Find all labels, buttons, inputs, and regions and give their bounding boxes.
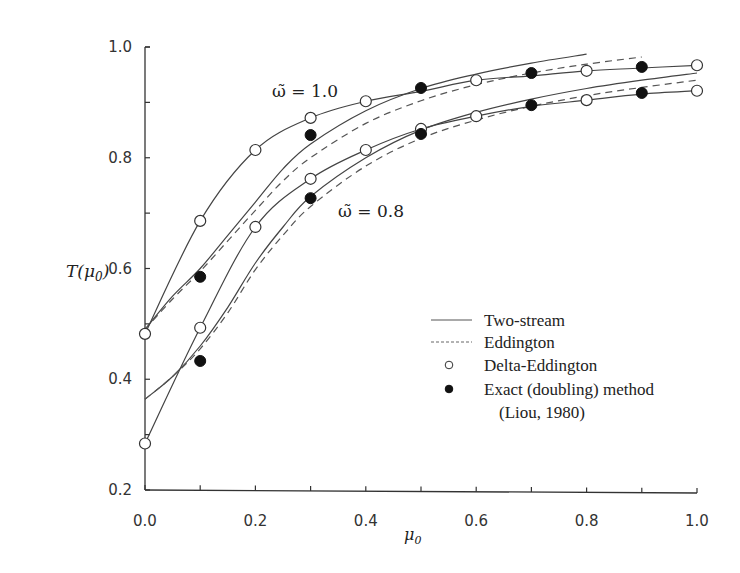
filled-circle-marker — [636, 61, 647, 72]
series-delta-eddington-omega-1 — [140, 60, 703, 340]
open-circle-marker — [140, 328, 151, 339]
series-exact-doubling-omega-0-8 — [195, 87, 648, 366]
x-axis-label-sub: 0 — [414, 534, 421, 547]
y-ticks: 0.20.40.60.81.0 — [108, 38, 150, 499]
x-axis-label-main: μ — [404, 525, 414, 544]
transmission-chart: 0.20.40.60.81.0 0.00.20.40.60.81.0 ω̃ = … — [0, 0, 740, 573]
open-circle-marker — [360, 144, 371, 155]
open-circle-marker — [471, 111, 482, 122]
filled-circle-marker — [416, 82, 427, 93]
y-tick-label: 0.4 — [108, 370, 132, 388]
x-axis-label: μ0 — [404, 525, 421, 547]
legend-item-exact-doubling: Exact (doubling) method — [484, 380, 654, 399]
y-axis-label-main: T(μ — [66, 261, 95, 281]
filled-circle-marker — [636, 87, 647, 98]
open-circle-marker — [692, 60, 703, 71]
open-circle-marker — [692, 85, 703, 96]
filled-circle-marker — [526, 100, 537, 111]
open-circle-marker — [471, 75, 482, 86]
legend-citation: (Liou, 1980) — [499, 403, 585, 422]
open-circle-marker — [195, 322, 206, 333]
x-tick-label: 0.2 — [243, 512, 267, 530]
x-tick-label: 0.8 — [575, 512, 599, 530]
legend-item-delta-eddington: Delta-Eddington — [484, 356, 598, 375]
filled-circle-marker — [305, 130, 316, 141]
omega-high-annotation: ω̃ = 1.0 — [272, 81, 338, 101]
open-circle-marker — [195, 215, 206, 226]
filled-circle-marker — [305, 193, 316, 204]
axes: 0.20.40.60.81.0 0.00.20.40.60.81.0 — [108, 38, 709, 530]
filled-circle-marker — [416, 128, 427, 139]
open-circle-marker — [581, 95, 592, 106]
x-tick-label: 0.6 — [464, 512, 488, 530]
legend-item-eddington: Eddington — [484, 333, 555, 352]
x-tick-label: 1.0 — [685, 512, 709, 530]
legend-item-two-stream: Two-stream — [484, 311, 565, 330]
curve-line — [145, 65, 697, 334]
open-circle-marker — [305, 173, 316, 184]
y-axis-label: T(μ0) — [66, 261, 109, 284]
x-tick-label: 0.0 — [133, 512, 157, 530]
open-circle-marker — [305, 112, 316, 123]
legend: Two-stream Eddington Delta-Eddington Exa… — [431, 311, 654, 422]
legend-open-circle-icon — [445, 361, 453, 369]
filled-circle-marker — [526, 68, 537, 79]
filled-circle-marker — [195, 355, 206, 366]
y-tick-label: 1.0 — [108, 38, 132, 56]
open-circle-marker — [581, 65, 592, 76]
open-circle-marker — [250, 221, 261, 232]
y-tick-label: 0.6 — [108, 260, 132, 278]
y-axis-label-close: ) — [102, 261, 110, 281]
y-tick-label: 0.8 — [108, 149, 132, 167]
x-tick-label: 0.4 — [354, 512, 378, 530]
open-circle-marker — [250, 144, 261, 155]
filled-circle-marker — [195, 271, 206, 282]
legend-filled-circle-icon — [445, 385, 453, 393]
series-exact-doubling-omega-1 — [195, 61, 648, 282]
omega-low-annotation: ω̃ = 0.8 — [338, 201, 404, 221]
y-tick-label: 0.2 — [108, 481, 132, 499]
open-circle-marker — [140, 438, 151, 449]
open-circle-marker — [360, 96, 371, 107]
